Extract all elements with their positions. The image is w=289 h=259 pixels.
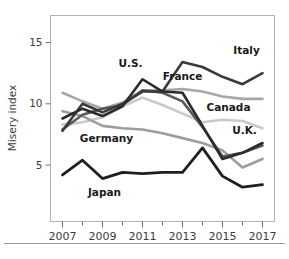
y-tick-label: 15 bbox=[29, 36, 42, 48]
series-label-japan: Japan bbox=[87, 186, 121, 198]
series-label-france: France bbox=[163, 70, 203, 82]
y-tick-label: 5 bbox=[36, 159, 43, 171]
series-label-canada: Canada bbox=[207, 101, 251, 113]
x-tick-label: 2007 bbox=[49, 230, 77, 243]
y-axis-ticks: 51015 bbox=[29, 36, 50, 171]
series-label-germany: Germany bbox=[80, 132, 133, 144]
misery-index-line-chart: 51015 200720092011201320152017 ItalyFran… bbox=[0, 0, 289, 259]
x-tick-label: 2015 bbox=[209, 230, 237, 243]
chart-figure: 51015 200720092011201320152017 ItalyFran… bbox=[0, 0, 289, 259]
x-tick-label: 2011 bbox=[129, 230, 157, 243]
y-axis-title: Misery index bbox=[6, 85, 18, 152]
series-label-uk: U.K. bbox=[232, 124, 257, 136]
footer-divider bbox=[4, 243, 285, 244]
y-tick-label: 10 bbox=[29, 97, 42, 109]
x-tick-label: 2017 bbox=[249, 230, 277, 243]
x-tick-label: 2013 bbox=[169, 230, 197, 243]
x-axis-ticks: 200720092011201320152017 bbox=[49, 222, 277, 243]
x-tick-label: 2009 bbox=[89, 230, 117, 243]
series-label-italy: Italy bbox=[233, 44, 260, 56]
series-label-us: U.S. bbox=[118, 57, 142, 69]
